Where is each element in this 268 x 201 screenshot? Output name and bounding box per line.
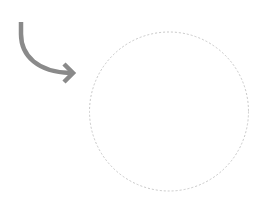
dashed-target-circle: [90, 32, 249, 191]
diagram-canvas: [0, 0, 268, 201]
diagram-svg: [0, 0, 268, 201]
curved-arrow-icon: [21, 22, 73, 82]
